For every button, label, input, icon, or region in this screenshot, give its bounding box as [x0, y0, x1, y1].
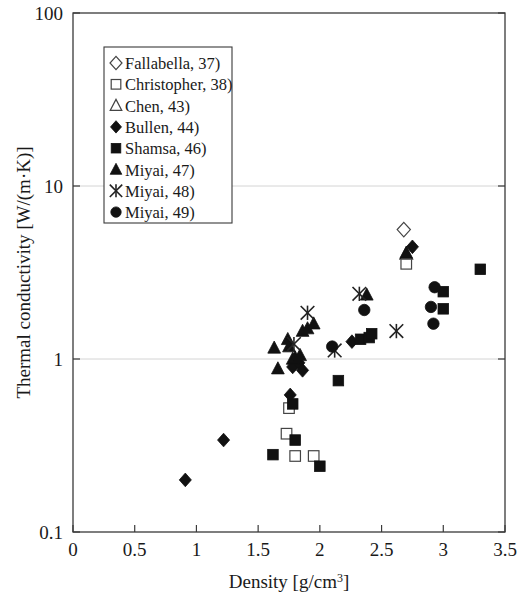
- legend-marker: [111, 80, 121, 90]
- data-point: [438, 304, 449, 315]
- data-point: [287, 399, 298, 410]
- chart-legend: Fallabella, 37)Christopher, 38)Chen, 43)…: [104, 47, 233, 223]
- data-point: [428, 318, 439, 329]
- scatter-chart: 0.111010000.511.522.533.5 Fallabella, 37…: [0, 0, 520, 598]
- legend-label: Christopher, 38): [125, 75, 233, 94]
- series-group: [326, 281, 440, 352]
- data-point: [397, 222, 410, 237]
- legend-label: Fallabella, 37): [125, 54, 220, 73]
- legend-label: Chen, 43): [125, 97, 190, 116]
- legend-label: Miyai, 47): [125, 161, 195, 180]
- x-tick-label: 0.5: [123, 539, 147, 560]
- data-point: [333, 375, 344, 386]
- legend-marker: [111, 143, 121, 153]
- data-point: [290, 435, 301, 446]
- data-point: [290, 451, 301, 462]
- legend-label: Shamsa, 46): [125, 139, 207, 158]
- series-group: [397, 222, 410, 237]
- x-tick-label: 3.5: [493, 539, 517, 560]
- series-group: [268, 246, 413, 374]
- legend-label: Miyai, 48): [125, 182, 195, 201]
- x-tick-label: 2: [315, 539, 325, 560]
- data-point: [218, 433, 230, 447]
- data-point: [401, 259, 412, 270]
- data-point: [308, 451, 319, 462]
- x-axis-title: Density [g/cm3]: [229, 571, 350, 592]
- x-tick-label: 1.5: [246, 539, 270, 560]
- data-point: [366, 328, 377, 339]
- y-axis-title: Thermal conductivity [W/(m·K)]: [13, 146, 35, 398]
- data-point: [272, 362, 285, 374]
- data-point: [326, 341, 337, 352]
- x-tick-label: 0: [68, 539, 78, 560]
- data-point: [268, 449, 279, 460]
- data-point: [179, 473, 191, 487]
- legend-label: Bullen, 44): [125, 118, 199, 137]
- series-group: [287, 287, 403, 358]
- data-point: [315, 461, 326, 472]
- x-tick-label: 3: [439, 539, 449, 560]
- y-tick-label: 0.1: [39, 522, 63, 543]
- data-point: [425, 301, 436, 312]
- y-tick-label: 10: [44, 176, 63, 197]
- y-tick-label: 100: [35, 3, 64, 24]
- data-point: [301, 306, 315, 320]
- data-points: [179, 222, 485, 486]
- data-point: [475, 264, 486, 275]
- legend-marker: [111, 207, 121, 217]
- data-point: [268, 341, 281, 353]
- y-tick-label: 1: [54, 349, 64, 370]
- chart-canvas: 0.111010000.511.522.533.5 Fallabella, 37…: [0, 0, 520, 598]
- x-tick-label: 2.5: [370, 539, 394, 560]
- data-point: [359, 304, 370, 315]
- data-point: [429, 281, 440, 292]
- x-tick-label: 1: [192, 539, 202, 560]
- data-point: [390, 324, 404, 338]
- legend-label: Miyai, 49): [125, 203, 195, 222]
